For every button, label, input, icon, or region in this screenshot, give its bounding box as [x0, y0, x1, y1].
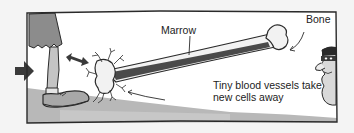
marrow-label: Marrow	[161, 24, 196, 36]
blood-vessels-label: Tiny blood vessels take new cells away	[213, 79, 322, 103]
bone-diagram-panel: Marrow Bone Tiny blood vessels take new …	[0, 0, 354, 133]
blood-vessels-label-line2: new cells away	[213, 91, 322, 103]
blood-vessels-label-line1: Tiny blood vessels take	[213, 79, 322, 91]
bone-left-knob	[95, 59, 115, 93]
bone-label: Bone	[306, 13, 331, 25]
